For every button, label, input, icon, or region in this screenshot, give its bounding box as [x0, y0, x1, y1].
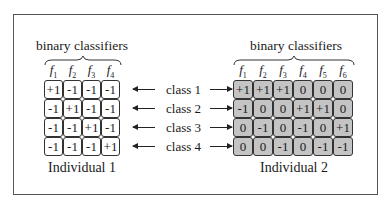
classifier-f3: f3 — [273, 62, 293, 80]
matrix-cell: -1 — [101, 99, 120, 118]
classifier-f2: f2 — [253, 62, 273, 80]
matrix-cell: 0 — [293, 80, 313, 99]
classifier-f2: f2 — [63, 62, 82, 80]
matrix-cell: 0 — [333, 80, 353, 99]
classifier-f4: f4 — [101, 62, 120, 80]
arrow-left-icon — [133, 108, 155, 109]
matrix-cell: -1 — [253, 118, 273, 137]
matrix-cell: -1 — [333, 137, 353, 156]
matrix-cell: -1 — [82, 137, 101, 156]
matrix-cell: 0 — [253, 137, 273, 156]
arrow-left-icon — [133, 127, 155, 128]
matrix-cell: 0 — [233, 137, 253, 156]
matrix-cell: +1 — [82, 118, 101, 137]
left-classifier-headers: f1f2f3f4 — [44, 62, 120, 80]
class-label: class 1 — [166, 82, 201, 98]
matrix-cell: 0 — [273, 118, 293, 137]
class-label: class 4 — [166, 139, 201, 155]
class-row: class 2 — [133, 99, 232, 118]
matrix-cell: -1 — [44, 99, 63, 118]
matrix-cell: 0 — [313, 80, 333, 99]
right-caption: Individual 2 — [248, 160, 340, 176]
matrix-cell: -1 — [82, 99, 101, 118]
matrix-cell: -1 — [273, 137, 293, 156]
classifier-f1: f1 — [44, 62, 63, 80]
matrix-cell: 0 — [233, 118, 253, 137]
right-classifier-headers: f1f2f3f4f5f6 — [233, 62, 353, 80]
arrow-left-icon — [133, 146, 155, 147]
matrix-cell: -1 — [44, 118, 63, 137]
matrix-cell: +1 — [101, 137, 120, 156]
matrix-cell: +1 — [233, 80, 253, 99]
matrix-cell: -1 — [101, 80, 120, 99]
arrow-right-icon — [210, 108, 232, 109]
matrix-cell: 0 — [273, 99, 293, 118]
matrix-cell: 0 — [293, 137, 313, 156]
matrix-cell: -1 — [233, 99, 253, 118]
arrow-right-icon — [210, 89, 232, 90]
class-label: class 2 — [166, 101, 201, 117]
matrix-cell: -1 — [293, 118, 313, 137]
matrix-cell: -1 — [44, 137, 63, 156]
matrix-cell: +1 — [44, 80, 63, 99]
matrix-cell: 0 — [333, 99, 353, 118]
classifier-f3: f3 — [82, 62, 101, 80]
arrow-right-icon — [210, 127, 232, 128]
matrix-cell: -1 — [82, 80, 101, 99]
class-row: class 4 — [133, 137, 232, 156]
matrix-cell: -1 — [63, 118, 82, 137]
matrix-cell: -1 — [313, 137, 333, 156]
class-label: class 3 — [166, 120, 201, 136]
matrix-cell: 0 — [253, 99, 273, 118]
classifier-f5: f5 — [313, 62, 333, 80]
matrix-cell: -1 — [63, 137, 82, 156]
left-caption: Individual 1 — [36, 160, 128, 176]
classifier-f6: f6 — [333, 62, 353, 80]
arrow-left-icon — [133, 89, 155, 90]
right-header: binary classifiers — [244, 38, 348, 54]
matrix-cell: -1 — [63, 80, 82, 99]
arrow-right-icon — [210, 146, 232, 147]
matrix-cell: -1 — [101, 118, 120, 137]
class-row: class 3 — [133, 118, 232, 137]
left-header: binary classifiers — [34, 38, 130, 54]
matrix-cell: +1 — [273, 80, 293, 99]
matrix-cell: 0 — [313, 118, 333, 137]
matrix-cell: +1 — [253, 80, 273, 99]
class-row: class 1 — [133, 80, 232, 99]
classifier-f4: f4 — [293, 62, 313, 80]
matrix-cell: +1 — [293, 99, 313, 118]
right-matrix: +1+1+1000-100+1+100-10-10+100-10-1-1 — [233, 80, 353, 156]
matrix-cell: +1 — [333, 118, 353, 137]
matrix-cell: +1 — [63, 99, 82, 118]
classifier-f1: f1 — [233, 62, 253, 80]
matrix-cell: +1 — [313, 99, 333, 118]
left-matrix: +1-1-1-1-1+1-1-1-1-1+1-1-1-1-1+1 — [44, 80, 120, 156]
